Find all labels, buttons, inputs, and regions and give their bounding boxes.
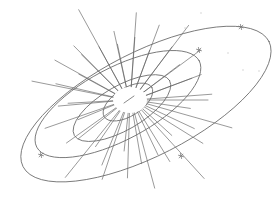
ray-line (140, 47, 172, 90)
orbital-sketch (0, 0, 276, 223)
ray-line (144, 107, 203, 144)
ray-line (145, 78, 192, 95)
ray-line (141, 109, 204, 178)
ray-line (55, 60, 116, 94)
speck (258, 70, 259, 71)
central-core (113, 87, 147, 113)
star-lower-right (178, 153, 184, 159)
speck (200, 12, 201, 13)
speck (242, 69, 243, 70)
speck (184, 27, 185, 28)
speck (227, 52, 228, 53)
ray-line (56, 84, 114, 97)
ray-line (134, 112, 155, 188)
star-lower-left (38, 152, 44, 158)
ray-line (146, 94, 212, 99)
core-glow (113, 87, 147, 113)
ray-line (131, 37, 135, 87)
ray-line (65, 110, 120, 178)
ray-line (133, 112, 142, 163)
sketch-canvas: Pencil sketch of a bright central body w… (0, 0, 276, 223)
ray-line (143, 50, 201, 93)
dust-specks (184, 12, 259, 71)
star-upper-middle (196, 47, 202, 53)
ray-line (102, 111, 124, 165)
ray-line (145, 105, 195, 128)
